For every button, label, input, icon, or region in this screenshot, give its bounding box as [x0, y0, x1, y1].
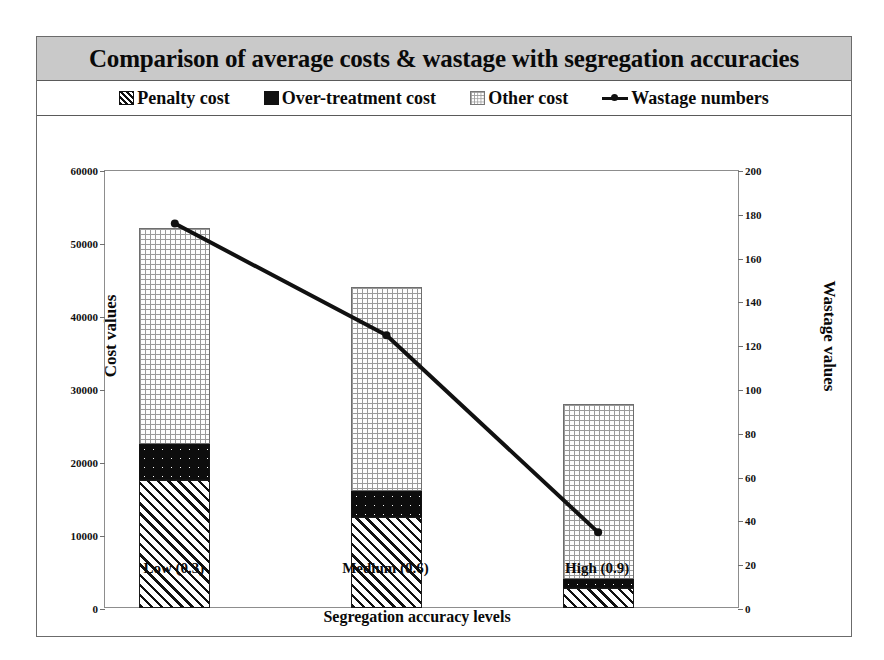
chart-legend: Penalty cost Over-treatment cost Other c… — [37, 81, 851, 116]
y-axis-tick-mark — [100, 609, 105, 610]
grid-square-icon — [470, 91, 485, 105]
wastage-data-point[interactable] — [383, 331, 391, 339]
x-axis-tick-label: Medium (0.6) — [342, 560, 429, 577]
x-axis-title: Segregation accuracy levels — [37, 608, 797, 626]
legend-item-over-treatment-cost: Over-treatment cost — [264, 88, 436, 109]
wastage-data-point[interactable] — [171, 220, 179, 228]
page-title: Comparison of average costs & wastage wi… — [89, 45, 799, 73]
black-dotted-square-icon — [264, 91, 279, 105]
legend-item-wastage-numbers: Wastage numbers — [602, 88, 769, 109]
plot-box: 0100002000030000400005000060000020406080… — [104, 170, 739, 608]
legend-label-penalty-cost: Penalty cost — [137, 88, 229, 109]
chart-screenshot: Comparison of average costs & wastage wi… — [0, 0, 884, 660]
hatch-square-icon — [119, 91, 134, 105]
y2-axis-tick-mark — [738, 609, 743, 610]
chart-title-band: Comparison of average costs & wastage wi… — [37, 37, 851, 81]
wastage-data-point[interactable] — [594, 528, 602, 536]
wastage-line-path — [175, 224, 598, 533]
legend-label-over-treatment-cost: Over-treatment cost — [282, 88, 436, 109]
chart-frame: Comparison of average costs & wastage wi… — [36, 36, 852, 637]
wastage-line-series — [105, 171, 740, 609]
legend-item-other-cost: Other cost — [470, 88, 568, 109]
legend-item-penalty-cost: Penalty cost — [119, 88, 229, 109]
legend-label-other-cost: Other cost — [488, 88, 568, 109]
legend-label-wastage-numbers: Wastage numbers — [631, 88, 769, 109]
x-axis-tick-label: Low (0.3) — [143, 560, 204, 577]
x-axis-tick-label: High (0.9) — [565, 560, 629, 577]
plot-area: Cost values Wastage values Segregation a… — [37, 116, 851, 636]
line-marker-icon — [602, 91, 628, 105]
y-axis-title-right: Wastage values — [819, 256, 839, 416]
